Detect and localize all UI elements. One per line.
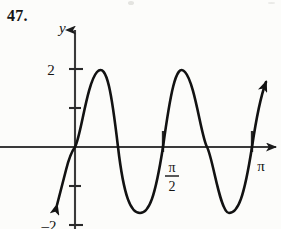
sine-graph: y 2 –2 π 2 π: [0, 0, 281, 229]
figure-container: 47. y 2 –2: [0, 0, 281, 229]
x-tick-label-pi-denominator: 2: [169, 179, 176, 194]
y-tick-label-neg2: –2: [41, 218, 57, 229]
x-tick-label-pi: π: [257, 158, 265, 174]
x-tick-label-pi-numerator: π: [168, 160, 175, 175]
sine-curve: [57, 70, 266, 213]
y-axis-label: y: [57, 20, 66, 36]
y-tick-label-2: 2: [47, 62, 55, 78]
